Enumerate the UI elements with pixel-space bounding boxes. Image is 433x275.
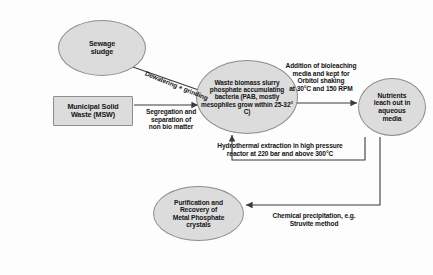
diagram-canvas: Sewage sludge Municipal Solid Waste (MSW… bbox=[0, 0, 433, 275]
node-nutrients-leach-out-label: Nutrients leach out in aqueous media bbox=[371, 92, 414, 122]
node-municipal-solid-waste-label: Municipal Solid Waste (MSW) bbox=[64, 103, 121, 119]
node-purification-recovery[interactable]: Purification and Recovery of Metal Phosp… bbox=[153, 186, 244, 241]
edge-label-chemical-precipitation: Chemical precipitation, e.g. Struvite me… bbox=[254, 212, 374, 227]
edge-label-segregation: Segregation and separation of non bio ma… bbox=[134, 108, 208, 131]
edge-label-bioleaching: Addition of bioleaching media and kept f… bbox=[276, 62, 366, 92]
edge-label-hydrothermal: Hydrothermal extraction in high pressure… bbox=[190, 142, 370, 157]
node-sewage-sludge-label: Sewage sludge bbox=[86, 40, 118, 56]
node-nutrients-leach-out[interactable]: Nutrients leach out in aqueous media bbox=[358, 78, 426, 136]
node-purification-recovery-label: Purification and Recovery of Metal Phosp… bbox=[170, 199, 228, 229]
node-municipal-solid-waste[interactable]: Municipal Solid Waste (MSW) bbox=[53, 96, 133, 126]
